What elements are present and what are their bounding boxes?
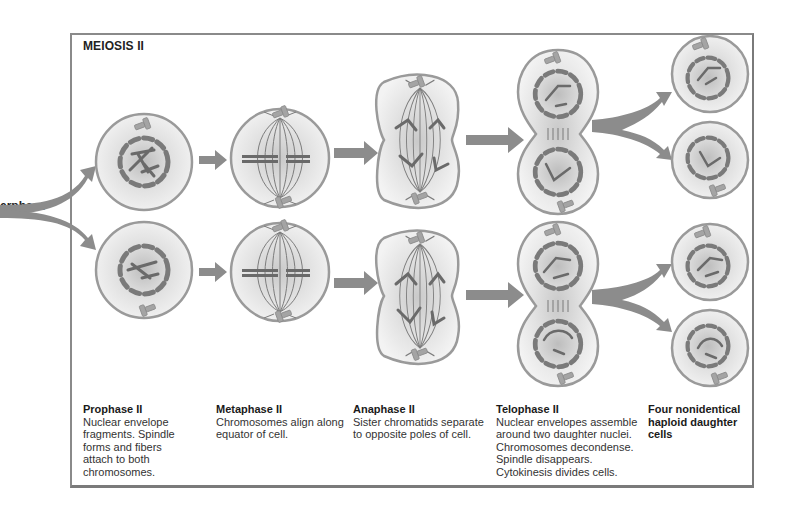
caption-body: Nuclear envelopes assemble around two da… [496,416,646,479]
caption-anaphase-ii: Anaphase II Sister chromatids separate t… [353,403,493,441]
daughter-cell-1 [672,36,748,112]
telophase-ii-cell-top [518,50,598,214]
caption-metaphase-ii: Metaphase II Chromosomes align along equ… [216,403,351,441]
arrow-icon [334,271,378,295]
metaphase-ii-cell-bottom [231,219,329,322]
daughter-cell-4 [672,310,748,386]
arrow-icon [466,127,524,153]
caption-prophase-ii: Prophase II Nuclear envelope fragments. … [83,403,203,478]
prophase-ii-cell-top [96,114,192,210]
arrow-icon [334,141,378,165]
caption-daughter-cells: Four nonidentical haploid daughter cells [648,403,748,441]
split-arrow-top [592,92,672,160]
caption-heading: Four nonidentical haploid daughter cells [648,403,740,440]
metaphase-ii-cell-top [231,105,329,208]
arrow-icon [199,150,227,170]
arrow-icon [466,282,524,308]
split-arrow-bottom [592,264,672,332]
caption-heading: Telophase II [496,403,646,416]
prophase-ii-cell-bottom [96,222,192,318]
daughter-cell-3 [672,224,748,300]
anaphase-ii-cell-top [376,75,459,208]
caption-telophase-ii: Telophase II Nuclear envelopes assemble … [496,403,646,478]
incoming-split-arrow [0,166,96,250]
daughter-cell-2 [672,122,748,198]
caption-heading: Anaphase II [353,403,493,416]
caption-heading: Metaphase II [216,403,351,416]
caption-body: Sister chromatids separate to opposite p… [353,416,493,441]
telophase-ii-cell-bottom [518,222,598,386]
arrow-icon [199,262,227,282]
caption-body: Chromosomes align along equator of cell. [216,416,351,441]
anaphase-ii-cell-bottom [376,231,459,364]
caption-body: Nuclear envelope fragments. Spindle form… [83,416,203,479]
caption-heading: Prophase II [83,403,203,416]
